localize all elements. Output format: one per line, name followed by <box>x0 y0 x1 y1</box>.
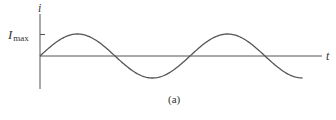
imax-label-sub: max <box>13 33 29 43</box>
x-axis-label: t <box>326 50 329 62</box>
y-axis-label: i <box>38 2 41 14</box>
imax-label-main: I <box>8 27 12 42</box>
imax-label: Imax <box>8 28 29 43</box>
figure-caption: (a) <box>168 94 180 105</box>
